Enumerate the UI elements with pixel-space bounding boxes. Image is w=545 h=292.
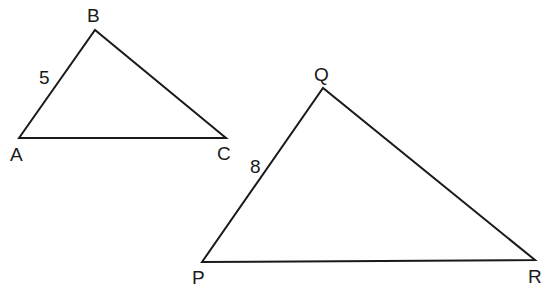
vertex-label-r: R <box>528 266 542 287</box>
side-label-pq: 8 <box>250 156 261 177</box>
vertex-label-p: P <box>192 267 205 288</box>
similar-triangles-diagram: A B C 5 P Q R 8 <box>0 0 545 292</box>
triangle-abc <box>19 30 226 138</box>
vertex-label-a: A <box>10 144 23 165</box>
vertex-label-c: C <box>217 143 231 164</box>
side-label-ab: 5 <box>39 67 50 88</box>
vertex-label-b: B <box>87 5 100 26</box>
vertex-label-q: Q <box>314 64 329 85</box>
